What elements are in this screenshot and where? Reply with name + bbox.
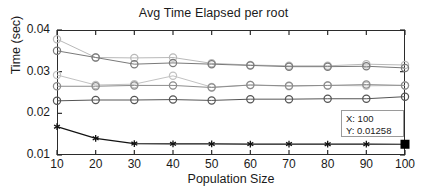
- x-tick-label: 70: [269, 157, 309, 171]
- series-series-5: [53, 93, 408, 104]
- x-tick-label: 10: [37, 157, 77, 171]
- y-tick-label: 0.03: [2, 64, 50, 78]
- x-tick-label: 40: [153, 157, 193, 171]
- x-tick-label: 90: [346, 157, 386, 171]
- x-tick-label: 100: [385, 157, 425, 171]
- y-tick-label: 0.02: [2, 105, 50, 119]
- x-tick-label: 20: [76, 157, 116, 171]
- data-tip-y: Y: 0.01258: [346, 125, 403, 137]
- data-tip-marker[interactable]: [401, 140, 410, 149]
- series-series-3: [53, 71, 408, 90]
- data-tip-x: X: 100: [346, 113, 403, 125]
- x-tick-label: 60: [230, 157, 270, 171]
- data-tip-box[interactable]: X: 100 Y: 0.01258: [341, 110, 404, 137]
- series-series-2: [53, 47, 408, 71]
- x-tick-label: 80: [308, 157, 348, 171]
- x-axis-label: Population Size: [57, 172, 405, 186]
- y-tick-label: 0.04: [2, 22, 50, 36]
- chart-figure: Avg Time Elapsed per root Time (sec) 0.0…: [0, 0, 427, 194]
- x-tick-label: 30: [114, 157, 154, 171]
- x-tick-label: 50: [192, 157, 232, 171]
